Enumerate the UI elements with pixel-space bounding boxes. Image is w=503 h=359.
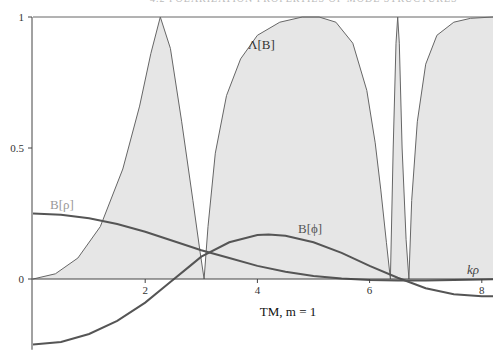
b-rho-label: B[ρ] [50, 197, 74, 212]
x-tick-label: 4 [255, 284, 261, 296]
b-phi-label: B[ϕ] [298, 221, 322, 236]
y-ticks: 00.51 [10, 11, 32, 285]
lambda-label: Λ[B] [248, 37, 275, 52]
x-tick-label: 6 [367, 284, 373, 296]
chart: 00.51 2468 Λ[B] B[ρ] B[ϕ] kρ TM, m = 1 [0, 0, 503, 359]
lambda-fill-area [33, 17, 493, 279]
y-tick-label: 0.5 [10, 142, 24, 154]
x-ticks: 2468 [142, 279, 485, 296]
y-tick-label: 1 [19, 11, 25, 23]
x-tick-label: 2 [142, 284, 148, 296]
chart-caption: TM, m = 1 [260, 304, 316, 319]
plot-area [33, 17, 493, 345]
y-tick-label: 0 [19, 273, 25, 285]
x-axis-label: kρ [467, 262, 479, 277]
x-tick-label: 8 [479, 284, 485, 296]
